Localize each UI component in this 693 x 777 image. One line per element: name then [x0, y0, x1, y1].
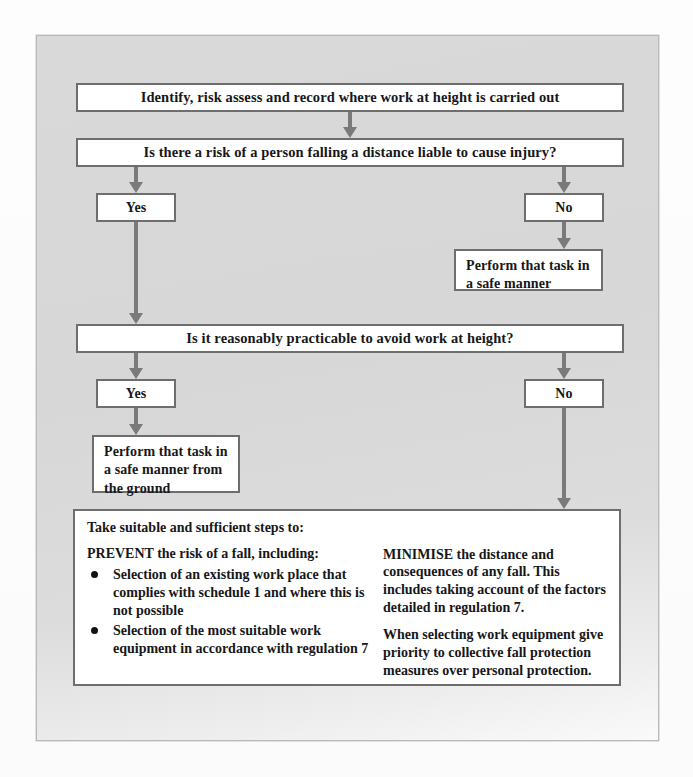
list-item-text: Selection of an existing work place that… [113, 567, 364, 618]
connector-identify-to-risk-question [343, 112, 357, 138]
list-item: Selection of an existing work place that… [87, 566, 377, 620]
arrow-head [129, 424, 143, 435]
arrow-head [343, 127, 357, 138]
connector-practicable-no-to-outcome-box [557, 408, 571, 509]
arrow-head [129, 182, 143, 193]
connector-practicable-question-to-no [557, 353, 571, 379]
outcome-collective-protection-paragraph: When selecting work equipment give prior… [383, 626, 609, 680]
connector-risk-no-to-perform-safe [557, 222, 571, 249]
node-perform-safe-manner-from-ground: Perform that task in a safe manner from … [92, 435, 240, 493]
list-item: Selection of the most suitable work equi… [87, 622, 377, 658]
node-practicable-no: No [524, 379, 604, 408]
flowchart-frame: Identify, risk assess and record where w… [36, 35, 659, 741]
node-risk-no: No [524, 193, 604, 222]
node-risk-question: Is there a risk of a person falling a di… [76, 138, 624, 167]
connector-risk-yes-to-practicable-question [129, 222, 143, 324]
scanned-page: Identify, risk assess and record where w… [0, 0, 693, 777]
list-item-text: Selection of the most suitable work equi… [113, 623, 368, 656]
arrow-shaft [562, 167, 566, 182]
node-identify-risk-assess: Identify, risk assess and record where w… [76, 83, 624, 112]
connector-practicable-question-to-yes [129, 353, 143, 379]
connector-practicable-yes-to-perform-safe-ground [129, 408, 143, 435]
arrow-shaft [134, 353, 138, 368]
node-perform-safe-manner: Perform that task in a safe manner [454, 249, 603, 291]
outcome-prevent-bullet-list: Selection of an existing work place that… [87, 566, 377, 658]
node-practicable-question: Is it reasonably practicable to avoid wo… [76, 324, 624, 353]
bullet-icon [91, 571, 98, 578]
arrow-head [129, 313, 143, 324]
outcome-prevent-intro: PREVENT the risk of a fall, including: [87, 545, 377, 563]
arrow-shaft [562, 408, 566, 498]
arrow-shaft [134, 222, 138, 313]
arrow-shaft [562, 353, 566, 368]
arrow-head [557, 238, 571, 249]
arrow-shaft [134, 408, 138, 424]
outcome-minimise-paragraph: MINIMISE the distance and consequences o… [383, 546, 609, 618]
arrow-head [557, 368, 571, 379]
bullet-icon [91, 627, 98, 634]
arrow-shaft [348, 112, 352, 127]
node-risk-yes: Yes [96, 193, 176, 222]
arrow-shaft [562, 222, 566, 238]
connector-risk-question-to-no [557, 167, 571, 193]
outcome-box-right-column: MINIMISE the distance and consequences o… [383, 545, 609, 689]
node-practicable-yes: Yes [96, 379, 176, 408]
arrow-head [557, 498, 571, 509]
arrow-head [557, 182, 571, 193]
outcome-box-heading: Take suitable and sufficient steps to: [87, 519, 609, 537]
arrow-head [129, 368, 143, 379]
arrow-shaft [134, 167, 138, 182]
outcome-box-left-column: PREVENT the risk of a fall, including: S… [87, 545, 377, 689]
connector-risk-question-to-yes [129, 167, 143, 193]
outcome-box: Take suitable and sufficient steps to: P… [73, 509, 621, 686]
